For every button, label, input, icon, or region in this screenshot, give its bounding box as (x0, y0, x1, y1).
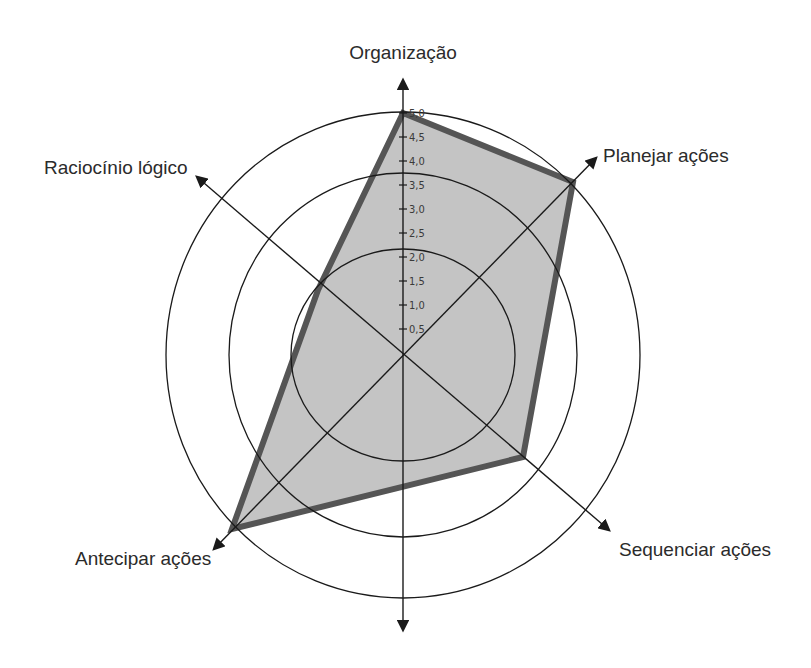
tick-label: 4,0 (409, 155, 425, 168)
tick-label: 3,0 (409, 203, 425, 216)
axis-label-sequenciar: Sequenciar ações (619, 539, 771, 560)
axis-label-organizacao: Organização (349, 42, 457, 63)
axis-label-raciocinio: Raciocínio lógico (44, 157, 188, 178)
axis-label-antecipar: Antecipar ações (75, 548, 211, 569)
tick-label: 3,5 (409, 179, 425, 192)
tick-label: 1,0 (409, 299, 425, 312)
tick-label: 4,5 (409, 131, 425, 144)
axis-label-planejar: Planejar ações (603, 145, 729, 166)
tick-label: 1,5 (409, 275, 425, 288)
tick-label: 5,0 (409, 107, 425, 120)
radar-chart: 0,5 1,0 1,5 2,0 2,5 3,0 3,5 4,0 4,5 5,0 … (0, 0, 811, 668)
tick-label: 0,5 (409, 323, 425, 336)
tick-label: 2,5 (409, 227, 425, 240)
tick-label: 2,0 (409, 251, 425, 264)
